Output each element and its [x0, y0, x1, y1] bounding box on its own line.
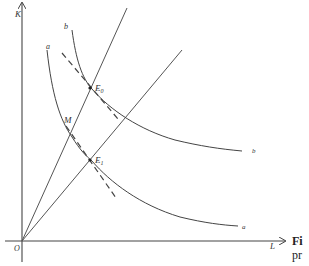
m-label: M: [63, 115, 72, 125]
tangent-e1: [66, 126, 116, 198]
e1-label: E1: [94, 155, 104, 166]
isoquant-a: [47, 50, 238, 226]
shallow-ray: [22, 50, 182, 241]
point-e1: [88, 158, 91, 161]
curve-a-label: a: [46, 42, 50, 51]
k-axis-label: K: [14, 9, 22, 19]
e0-label: E0: [94, 83, 104, 94]
curve-b-label: b: [64, 22, 68, 31]
curve-b-end-label: b: [252, 147, 256, 155]
caption-text-fragment: pr: [292, 248, 302, 262]
point-e0: [88, 86, 91, 89]
figure-caption-fragment: Fi: [292, 234, 303, 248]
curve-a-end-label: a: [242, 223, 246, 231]
origin-label: O: [14, 244, 20, 253]
l-axis-label: L: [269, 241, 275, 251]
tangent-e0: [62, 53, 118, 119]
isoquant-diagram: K L O b b a a E0 E1 M: [0, 0, 309, 266]
